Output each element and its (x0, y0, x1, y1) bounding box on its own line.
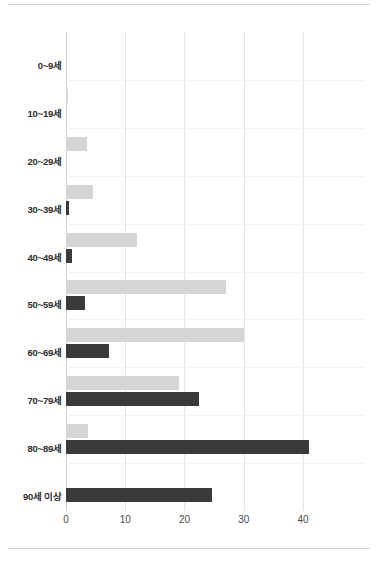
y-axis-category-labels: 0~9세10~19세20~29세30~39세40~49세50~59세60~69세… (0, 32, 62, 511)
band-separator (66, 176, 364, 177)
bar-group (66, 89, 364, 119)
bar-series-light-8[interactable] (66, 424, 88, 438)
bar-series-light-2[interactable] (66, 137, 87, 151)
x-tick-label-0: 0 (63, 514, 69, 525)
y-axis-label-4: 40~49세 (0, 250, 62, 264)
x-tick-label-40: 40 (297, 514, 308, 525)
y-axis-label-2: 20~29세 (0, 154, 62, 168)
band-separator (66, 367, 364, 368)
bar-series-light-4[interactable] (66, 233, 137, 247)
bar-series-light-3[interactable] (66, 185, 93, 199)
bar-series-dark-3[interactable] (66, 201, 69, 215)
page-rule-top (8, 4, 370, 5)
page-rule-bottom (8, 548, 370, 549)
chart-title (0, 0, 1, 1)
y-axis-label-3: 30~39세 (0, 202, 62, 216)
y-axis-label-0: 0~9세 (0, 58, 62, 72)
x-tick-label-20: 20 (179, 514, 190, 525)
band-separator (66, 463, 364, 464)
y-axis-label-1: 10~19세 (0, 106, 62, 120)
bar-group (66, 137, 364, 167)
bar-group (66, 41, 364, 71)
bar-group (66, 280, 364, 310)
bar-series-light-6[interactable] (66, 328, 244, 342)
bar-group (66, 472, 364, 502)
band-separator (66, 319, 364, 320)
band-separator (66, 128, 364, 129)
y-axis-label-8: 80~89세 (0, 441, 62, 455)
bar-series-light-5[interactable] (66, 280, 226, 294)
band-separator (66, 80, 364, 81)
bar-series-dark-9[interactable] (66, 488, 212, 502)
bar-group (66, 376, 364, 406)
bar-series-dark-8[interactable] (66, 440, 309, 454)
y-axis-label-9: 90세 이상 (0, 489, 62, 503)
y-axis-label-6: 60~69세 (0, 345, 62, 359)
y-axis-label-5: 50~59세 (0, 297, 62, 311)
bar-series-light-1[interactable] (66, 89, 68, 103)
bar-group (66, 424, 364, 454)
x-tick-label-30: 30 (238, 514, 249, 525)
bar-series-dark-7[interactable] (66, 392, 199, 406)
y-axis-label-7: 70~79세 (0, 393, 62, 407)
band-separator (66, 224, 364, 225)
x-tick-label-10: 10 (120, 514, 131, 525)
band-separator (66, 415, 364, 416)
bar-series-dark-4[interactable] (66, 249, 72, 263)
x-axis-tick-labels: 010203040 (66, 514, 364, 530)
bar-series-dark-6[interactable] (66, 344, 109, 358)
band-separator (66, 272, 364, 273)
bar-series-light-7[interactable] (66, 376, 179, 390)
bar-series-dark-5[interactable] (66, 296, 85, 310)
bar-chart: 0~9세10~19세20~29세30~39세40~49세50~59세60~69세… (0, 0, 378, 565)
bar-group (66, 185, 364, 215)
bar-group (66, 233, 364, 263)
bar-group (66, 328, 364, 358)
plot-area (66, 32, 364, 511)
